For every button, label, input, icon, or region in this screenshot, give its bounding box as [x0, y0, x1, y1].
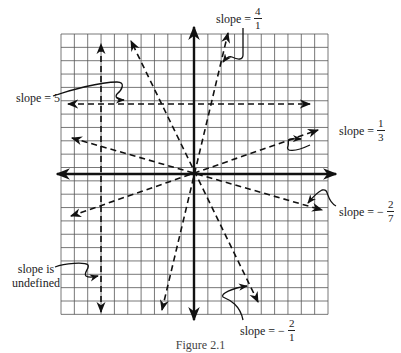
label-slope-1-3-prefix: slope =	[339, 125, 374, 137]
fraction-4-1: 41	[254, 6, 262, 31]
leader-slope-5	[53, 82, 124, 100]
fraction-denominator: 7	[387, 212, 395, 224]
label-undefined-line2: undefined	[12, 276, 60, 290]
label-undefined-line1: slope is	[12, 262, 60, 276]
fraction-denominator: 3	[377, 131, 385, 143]
label-slope-1-3: slope =13	[339, 118, 385, 143]
fraction-denominator: 1	[254, 19, 262, 31]
label-slope-5: slope = 5	[16, 92, 60, 104]
label-slope-4-1-prefix: slope =	[216, 13, 251, 25]
leader-slope-undefined	[55, 263, 98, 277]
label-slope-5-text: slope = 5	[16, 91, 60, 105]
label-slope-neg2-7-prefix: slope = −	[339, 206, 384, 218]
label-slope-neg2-1-prefix: slope = −	[240, 325, 285, 337]
fraction-numerator: 2	[288, 318, 296, 331]
fraction-numerator: 1	[377, 118, 385, 131]
label-slope-undefined: slope is undefined	[12, 262, 60, 290]
leader-slope-neg2-7	[308, 190, 336, 206]
figure-caption: Figure 2.1	[0, 338, 401, 353]
label-slope-4-1: slope =41	[216, 6, 262, 31]
leader-slope-4	[223, 28, 243, 62]
fraction-1-3: 13	[377, 118, 385, 143]
fraction-2-7: 27	[387, 199, 395, 224]
fraction-numerator: 4	[254, 6, 262, 19]
label-slope-neg2-7: slope = −27	[339, 199, 394, 224]
fraction-numerator: 2	[387, 199, 395, 212]
